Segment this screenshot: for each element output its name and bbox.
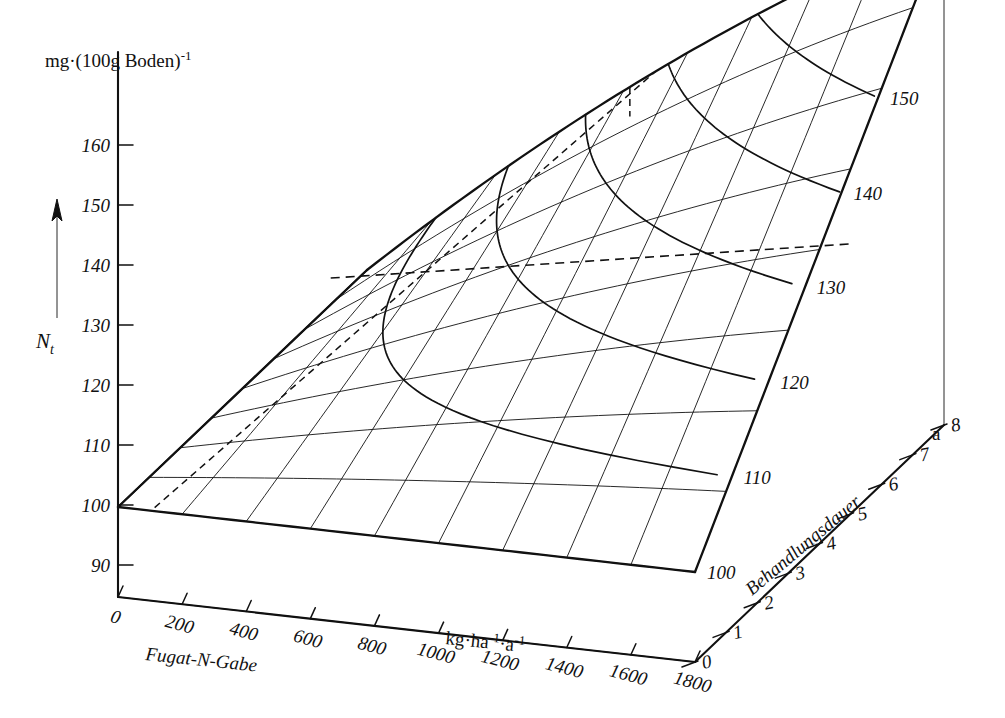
z-axis-symbol-label: Nt bbox=[35, 329, 55, 357]
mesh-line bbox=[243, 250, 820, 389]
tick-label: 0 bbox=[700, 650, 714, 673]
dashed-line bbox=[155, 72, 656, 508]
mesh-line bbox=[310, 132, 559, 529]
tick-label: 800 bbox=[356, 632, 389, 660]
tick-label: 150 bbox=[82, 195, 111, 216]
mesh-line bbox=[374, 91, 623, 536]
tick-mark bbox=[182, 593, 187, 604]
outline-edge bbox=[118, 507, 695, 572]
tick-label: 400 bbox=[227, 617, 260, 645]
tick-mark bbox=[439, 622, 444, 633]
tick-label: 90 bbox=[91, 555, 111, 576]
axes-lines bbox=[52, 0, 944, 662]
surface-plot-svg: 9010011012013014015016002004006008001000… bbox=[0, 0, 1005, 718]
tick-label: 110 bbox=[83, 435, 111, 456]
outline-edge bbox=[367, 0, 944, 270]
contour-label-120: 120 bbox=[780, 372, 809, 393]
tick-label: 2 bbox=[762, 591, 776, 614]
contour-label-100: 100 bbox=[707, 562, 736, 583]
tick-label: 6 bbox=[887, 473, 901, 496]
tick-label: 1400 bbox=[543, 652, 586, 682]
tick-label: 130 bbox=[82, 315, 111, 336]
tick-label: 200 bbox=[163, 610, 196, 638]
contour-label-110: 110 bbox=[744, 467, 772, 488]
tick-label: 1600 bbox=[608, 659, 651, 689]
contour-label-150: 150 bbox=[890, 88, 919, 109]
contour-label-130: 130 bbox=[817, 277, 846, 298]
dashed-line bbox=[331, 244, 851, 278]
tick-label: 8 bbox=[949, 413, 963, 436]
mesh-line bbox=[211, 330, 788, 418]
tick-label: 0 bbox=[108, 605, 123, 628]
x-axis-title: Fugat-N-Gabe bbox=[144, 643, 258, 675]
outline-edge bbox=[118, 270, 367, 507]
tick-mark bbox=[310, 608, 315, 619]
x-axis-unit-label: kg·ha-1·a-1 bbox=[445, 625, 527, 656]
mesh-line bbox=[274, 169, 851, 359]
axis-ticks bbox=[118, 145, 947, 667]
figure-canvas: 9010011012013014015016002004006008001000… bbox=[0, 0, 1005, 718]
y-axis-unit-label: a bbox=[932, 423, 941, 444]
contour-lines bbox=[118, 14, 874, 507]
mesh-line bbox=[439, 53, 688, 543]
mesh-line bbox=[367, 0, 944, 270]
mesh-line bbox=[149, 477, 726, 491]
tick-mark bbox=[374, 615, 379, 626]
tick-label: 120 bbox=[82, 375, 111, 396]
tick-label: 100 bbox=[82, 495, 111, 516]
tick-label: 140 bbox=[82, 255, 111, 276]
mesh-line bbox=[503, 17, 752, 550]
mesh-line bbox=[336, 8, 913, 300]
tick-mark bbox=[246, 600, 251, 611]
z-axis-unit-label: mg·(100g Boden)-1 bbox=[45, 48, 191, 72]
contour-label-140: 140 bbox=[853, 183, 882, 204]
tick-label: 1 bbox=[731, 621, 745, 644]
tick-label: 160 bbox=[82, 135, 111, 156]
tick-label: 7 bbox=[918, 443, 933, 466]
tick-mark bbox=[631, 644, 636, 655]
tick-label: 600 bbox=[292, 625, 325, 653]
contour-curve bbox=[758, 14, 874, 96]
tick-mark bbox=[567, 637, 572, 648]
